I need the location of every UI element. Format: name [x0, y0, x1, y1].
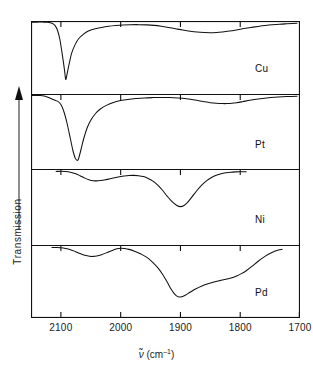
x-tick-label-2000: 2000	[99, 322, 143, 333]
wavenumber-symbol: ν̃	[139, 349, 144, 360]
x-tick-label-2100: 2100	[39, 322, 83, 333]
x-axis-tick-labels: 21002000190018001700	[0, 322, 313, 338]
x-axis-unit-exponent: –1	[163, 348, 171, 355]
trace-pd	[52, 247, 282, 297]
x-axis-unit-close: )	[171, 349, 174, 360]
panel-label-pd: Pd	[255, 287, 268, 298]
panel-label-cu: Cu	[255, 63, 268, 74]
x-axis-unit-open: (cm	[144, 349, 163, 360]
y-axis-label: Transmission	[12, 167, 23, 297]
panel-label-ni: Ni	[255, 214, 265, 225]
x-tick-label-1800: 1800	[218, 322, 262, 333]
x-axis-title: ν̃ (cm–1)	[0, 348, 313, 360]
y-axis-group: Transmission	[0, 86, 30, 318]
panel-label-pt: Pt	[255, 139, 265, 150]
ir-spectra-figure: Transmission Cu Pt Ni Pd 210020001900180…	[0, 0, 313, 373]
x-tick-label-1900: 1900	[158, 322, 202, 333]
trace-ni	[56, 171, 246, 206]
x-tick-label-1700: 1700	[278, 322, 313, 333]
trace-pt	[31, 95, 297, 160]
